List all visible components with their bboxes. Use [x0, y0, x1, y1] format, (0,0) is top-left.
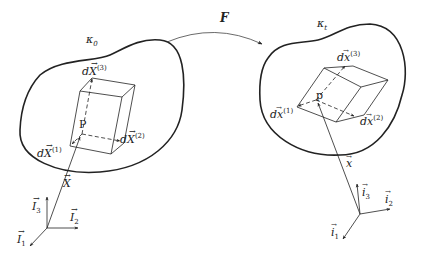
- current-configuration: p κt dx(3) → dx(1) → dx(2) → x → i3 → i2…: [260, 17, 405, 241]
- current-body-outline: [260, 24, 405, 155]
- I1-arrow-accent: →: [18, 227, 25, 236]
- point-P-label: P: [79, 118, 87, 131]
- I2-arrow-accent: →: [71, 205, 78, 214]
- kappa0-label: κ0: [85, 33, 98, 48]
- I3-arrow-accent: →: [33, 194, 40, 203]
- deformation-diagram: P κ0 dX(3) → dX(1) → dX(2) → X → I3 → I2…: [0, 0, 427, 259]
- i3-arrow-accent: →: [362, 181, 368, 189]
- dX3-arrow-accent: →: [91, 59, 98, 68]
- dx3-arrow-accent: →: [343, 47, 349, 55]
- reference-configuration: P κ0 dX(3) → dX(1) → dX(2) → X → I3 → I2…: [16, 33, 184, 248]
- reference-edge-vectors: [72, 79, 120, 144]
- dx2-arrow-accent: →: [366, 111, 372, 119]
- position-vector-x: [318, 103, 360, 214]
- kappat-label: κt: [316, 17, 327, 32]
- i2-arrow-accent: →: [385, 188, 391, 196]
- X-arrow-accent: →: [64, 171, 71, 180]
- dx1-arrow-accent: →: [276, 104, 282, 112]
- x-arrow-accent: →: [346, 153, 352, 161]
- F-label: F: [219, 11, 230, 25]
- point-p-label: p: [316, 89, 323, 102]
- mapping-arrow: [167, 32, 262, 44]
- i1-arrow-accent: →: [331, 221, 337, 229]
- dX1-arrow-accent: →: [46, 141, 53, 150]
- diagram-svg: P κ0 dX(3) → dX(1) → dX(2) → X → I3 → I2…: [0, 0, 427, 259]
- dX2-arrow-accent: →: [129, 127, 136, 136]
- deformation-mapping: F: [167, 11, 262, 44]
